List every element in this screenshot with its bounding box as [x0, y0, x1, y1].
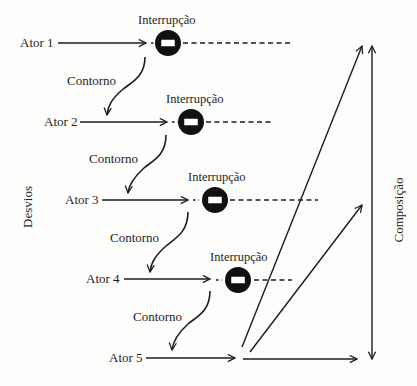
detour-1: Contorno — [67, 57, 145, 115]
composition-diagonal-arrow-long — [242, 46, 362, 347]
no-entry-icon — [225, 267, 251, 293]
actor-row-1: Ator 1 Interrupção — [20, 13, 292, 56]
actor-4-label: Ator 4 — [86, 271, 120, 286]
detours-axis-label: Desvios — [20, 186, 35, 228]
actor-2-label: Ator 2 — [44, 114, 78, 129]
interruption-2-label: Interrupção — [166, 92, 224, 106]
detour-1-label: Contorno — [67, 73, 116, 88]
actor-row-2: Ator 2 Interrupção — [44, 92, 272, 135]
actor-5-label: Ator 5 — [109, 350, 143, 365]
interruption-4-label: Interrupção — [210, 250, 268, 264]
detour-4-label: Contorno — [133, 309, 182, 324]
detour-3-label: Contorno — [110, 230, 159, 245]
actor-1-label: Ator 1 — [20, 35, 54, 50]
detour-2: Contorno — [89, 135, 166, 193]
actor-row-4: Ator 4 Interrupção — [86, 250, 292, 293]
detour-4: Contorno — [133, 291, 210, 350]
actor-row-3: Ator 3 Interrupção — [65, 170, 318, 213]
interruption-3-label: Interrupção — [188, 170, 246, 184]
actor-3-label: Ator 3 — [65, 192, 99, 207]
no-entry-icon — [202, 187, 228, 213]
detour-2-label: Contorno — [89, 151, 138, 166]
no-entry-icon — [155, 30, 181, 56]
no-entry-icon — [178, 109, 204, 135]
detour-3: Contorno — [110, 212, 188, 272]
interruption-1-label: Interrupção — [138, 13, 196, 27]
composition-axis-label: Composição — [391, 178, 406, 243]
composition-diagonal-arrow-short — [250, 205, 362, 352]
actor-row-5: Ator 5 — [109, 350, 357, 365]
diagram-canvas: Ator 1 Interrupção Contorno Ator 2 Inter… — [0, 0, 417, 386]
